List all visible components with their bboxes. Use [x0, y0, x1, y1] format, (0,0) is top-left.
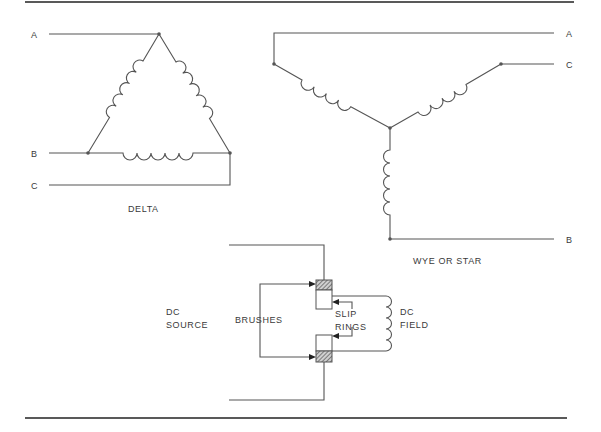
- delta-terminal-b-label: B: [31, 149, 38, 159]
- lower-slip-ring: [316, 335, 332, 351]
- dc-source-label-line2: SOURCE: [166, 320, 208, 330]
- delta-node-a: [157, 32, 161, 36]
- delta-node-c: [228, 151, 232, 155]
- dc-field-label-line1: DC: [400, 307, 414, 317]
- wye-node-center: [388, 126, 392, 130]
- brushes-arrow-bottom: [309, 354, 316, 360]
- delta-right-coil: [159, 34, 230, 153]
- delta-caption: DELTA: [128, 204, 159, 214]
- delta-terminal-c-label: C: [31, 181, 38, 191]
- slip-rings-arrow-bottom: [332, 333, 339, 339]
- dc-field-label-line2: FIELD: [400, 320, 429, 330]
- slip-rings-label-line2: RINGS: [335, 322, 367, 332]
- wye-terminal-c-label: C: [566, 60, 573, 70]
- dc-source-bottom-lead: [229, 362, 324, 400]
- wye-node-c: [499, 62, 503, 66]
- delta-line-b: [49, 153, 230, 160]
- upper-brush: [316, 280, 332, 290]
- wye-node-a: [272, 62, 276, 66]
- upper-slip-ring: [316, 290, 332, 309]
- delta-diagram: A B C DELTA: [31, 30, 232, 214]
- slip-rings-label-line1: SLIP: [335, 309, 357, 319]
- wye-terminal-b-label: B: [566, 235, 573, 245]
- lower-brush: [316, 351, 332, 362]
- delta-terminal-a-label: A: [31, 30, 38, 40]
- slip-rings-arrow-top: [332, 299, 339, 305]
- wye-node-b: [388, 237, 392, 241]
- wye-right-coil: [390, 64, 501, 128]
- wye-terminal-a-label: A: [566, 29, 573, 39]
- dc-source-top-lead: [229, 245, 324, 280]
- dc-source-label-line1: DC: [166, 307, 180, 317]
- brushes-arrow-top: [309, 281, 316, 287]
- wye-left-coil: [274, 64, 390, 128]
- wye-diagram: A C B WYE OR STAR: [272, 29, 573, 266]
- wye-bottom-coil: [384, 128, 390, 239]
- wye-caption: WYE OR STAR: [413, 256, 482, 266]
- delta-left-coil: [88, 34, 159, 153]
- delta-node-b: [86, 151, 90, 155]
- figure-canvas: A B C DELTA A C: [0, 0, 601, 432]
- brushes-label: BRUSHES: [235, 315, 283, 325]
- wye-line-a: [274, 33, 554, 64]
- rotor-excitation-diagram: DC SOURCE BRUSHES SLIP RINGS DC FIELD: [166, 245, 429, 400]
